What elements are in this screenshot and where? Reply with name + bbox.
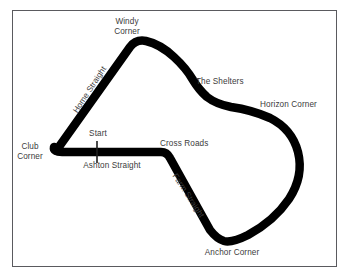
label-club-corner: Club Corner xyxy=(8,142,52,161)
label-ashton-straight: Ashton Straight xyxy=(75,161,149,171)
label-the-shelters: The Shelters xyxy=(196,77,266,87)
label-start: Start xyxy=(80,129,116,139)
label-windy-corner: Windy Corner xyxy=(97,17,157,36)
label-horizon-corner: Horizon Corner xyxy=(260,100,340,110)
label-anchor-corner: Anchor Corner xyxy=(194,248,270,258)
label-cross-roads: Cross Roads xyxy=(160,139,232,149)
circuit-diagram: Windy Corner The Shelters Horizon Corner… xyxy=(0,0,351,279)
